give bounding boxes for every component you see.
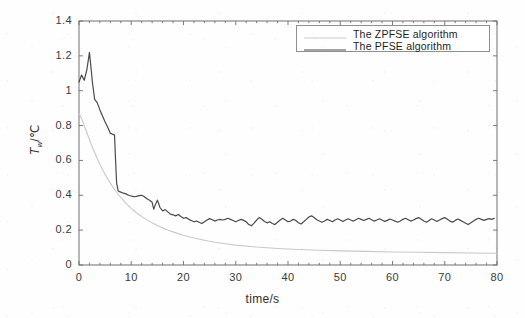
legend-label-zpfse: The ZPFSE algorithm — [353, 28, 458, 40]
x-axis-title: time/s — [0, 292, 525, 306]
x-tick-label: 80 — [477, 271, 517, 283]
x-tick-label: 10 — [111, 271, 151, 283]
chart-figure: 00.20.40.60.811.21.4 01020304050607080 T… — [0, 0, 525, 318]
x-tick-label: 30 — [216, 271, 256, 283]
legend-label-pfse: The PFSE algorithm — [353, 40, 451, 52]
legend-swatch-zpfse — [303, 29, 347, 39]
y-axis-title: Tw/℃ — [28, 110, 44, 170]
x-tick-label: 60 — [373, 271, 413, 283]
y-tick-label: 0 — [34, 258, 72, 270]
x-tick-label: 50 — [320, 271, 360, 283]
legend-swatch-pfse — [303, 41, 347, 51]
y-tick-label: 1.2 — [34, 49, 72, 61]
y-tick-label: 1 — [34, 84, 72, 96]
chart-legend: The ZPFSE algorithm The PFSE algorithm — [296, 25, 490, 52]
x-tick-label: 20 — [164, 271, 204, 283]
legend-entry-pfse: The PFSE algorithm — [297, 39, 489, 52]
y-tick-label: 0.2 — [34, 223, 72, 235]
x-tick-label: 40 — [268, 271, 308, 283]
y-tick-label: 1.4 — [34, 14, 72, 26]
x-tick-label: 0 — [59, 271, 99, 283]
y-axis-title-wrap: Tw/℃ — [14, 126, 60, 160]
y-tick-label: 0.4 — [34, 188, 72, 200]
x-tick-label: 70 — [425, 271, 465, 283]
